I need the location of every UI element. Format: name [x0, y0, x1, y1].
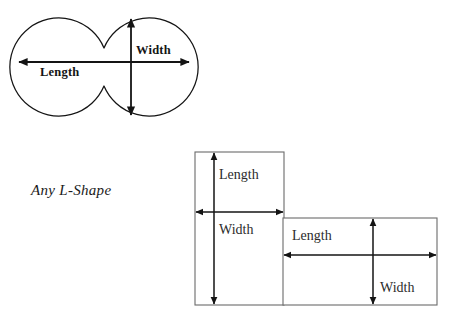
peanut-width-label: Width — [136, 44, 171, 57]
wide-rectangle-length-label: Length — [292, 229, 332, 243]
tall-rectangle-width-label: Width — [219, 223, 253, 237]
tall-rectangle-length-label: Length — [219, 168, 259, 182]
peanut-shape — [10, 18, 198, 116]
peanut-length-label: Length — [40, 66, 79, 79]
diagram-canvas: Length Width Any L-Shape Length Width Le… — [0, 0, 456, 316]
geometry-figure — [0, 0, 456, 316]
any-l-shape-caption: Any L-Shape — [31, 183, 111, 198]
wide-rectangle-width-label: Width — [380, 281, 414, 295]
peanut-outline — [10, 18, 198, 116]
